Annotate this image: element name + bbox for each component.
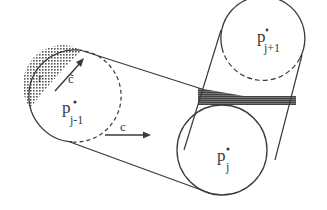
label-sub-prev: j-1 (69, 113, 83, 127)
center-dot-prev (73, 100, 76, 103)
hatched-band (198, 88, 296, 105)
label-c: c (120, 119, 126, 134)
tube-bottom-line (70, 142, 215, 195)
label-c-tilde: c̃ (68, 71, 74, 86)
tube-left-line (184, 30, 221, 150)
label-sub-next: j+1 (263, 41, 280, 55)
label-sub-curr: j (225, 160, 229, 174)
center-dot-curr (226, 147, 229, 150)
label-p-curr: p (217, 146, 226, 165)
circle-next-dashed (222, 48, 300, 80)
center-dot-next (266, 29, 269, 32)
arrowhead-c-icon (143, 132, 151, 139)
label-r: r (38, 70, 43, 85)
tube-diagram: r c̃ c p j-1 p j p j+1 (0, 0, 327, 210)
tube-right-line (275, 55, 302, 160)
